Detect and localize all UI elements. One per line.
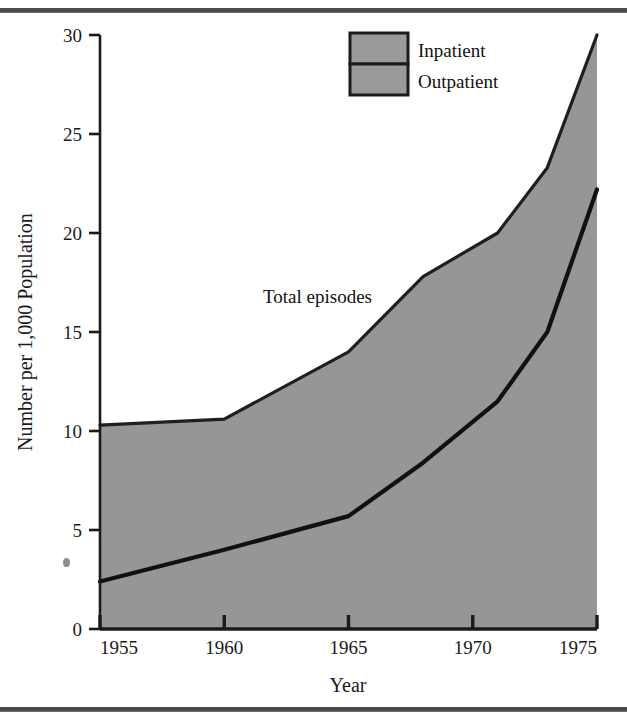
y-axis-tick-label: 5 xyxy=(73,520,83,541)
y-axis-tick-label: 30 xyxy=(63,25,82,46)
y-axis-tick-label: 15 xyxy=(63,322,82,343)
annotation-total-episodes: Total episodes xyxy=(263,286,372,307)
legend: Inpatient Outpatient xyxy=(350,33,499,95)
y-axis-tick-label: 0 xyxy=(73,619,83,640)
x-axis-tick-label: 1970 xyxy=(454,637,492,658)
x-axis-tick-label: 1955 xyxy=(100,637,138,658)
y-axis-tick-label: 20 xyxy=(63,223,82,244)
x-axis-tick-label: 1960 xyxy=(205,637,243,658)
legend-item-inpatient[interactable]: Inpatient xyxy=(350,33,486,64)
figure-container: 051015202530 19551960196519701975 Number… xyxy=(0,0,627,720)
y-axis-tick-labels: 051015202530 xyxy=(63,25,82,640)
legend-item-outpatient[interactable]: Outpatient xyxy=(350,64,499,95)
x-axis-tick-label: 1965 xyxy=(330,637,368,658)
y-axis-title: Number per 1,000 Population xyxy=(14,213,37,451)
chart-areas xyxy=(100,35,597,629)
x-axis-title: Year xyxy=(330,674,367,696)
y-axis-tick-label: 10 xyxy=(63,421,82,442)
legend-swatch-outpatient xyxy=(350,64,408,95)
x-axis-tick-label: 1975 xyxy=(559,637,597,658)
legend-label-inpatient: Inpatient xyxy=(418,40,486,61)
legend-swatch-inpatient xyxy=(350,33,408,64)
y-axis-ticks xyxy=(89,35,100,629)
legend-label-outpatient: Outpatient xyxy=(418,71,499,92)
area-chart: 051015202530 19551960196519701975 Number… xyxy=(0,0,627,720)
x-axis-tick-labels: 19551960196519701975 xyxy=(100,637,597,658)
y-axis-tick-label: 25 xyxy=(63,124,82,145)
